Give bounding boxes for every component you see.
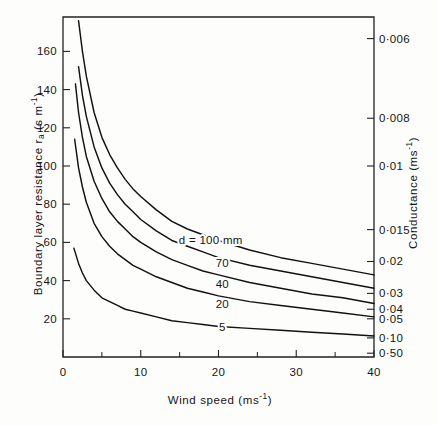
curve-label-1: 70 (216, 257, 229, 269)
y-axis-left-tick-label: 160 (37, 45, 57, 57)
x-axis-title-exponent: -1 (259, 392, 268, 401)
x-axis-title-close: ) (268, 394, 272, 406)
y-axis-left-title-units: (s m (32, 105, 44, 134)
curve-labels-group: d = 100 mmd = 100 mm70704040202055 (179, 234, 243, 333)
y-axis-right-title-close: ) (407, 137, 419, 141)
x-axis-tick-label: 40 (367, 366, 380, 378)
curve-1 (79, 67, 374, 289)
y-axis-left-title-close: ) (32, 92, 44, 96)
y-axis-right-tick-label: 0·05 (379, 313, 403, 325)
y-axis-right-title-main: Conductance (ms (407, 150, 419, 249)
x-axis-tick-label: 10 (134, 366, 147, 378)
curve-label-3: 20 (216, 298, 229, 310)
x-axis-title: Wind speed (ms-1) (120, 392, 320, 406)
y-axis-left-title-exponent: -1 (30, 97, 39, 106)
y-axis-right-title-exponent: -1 (405, 141, 414, 150)
y-axis-right-tick-label: 0·03 (379, 287, 403, 299)
y-axis-right-tick-label: 0·01 (379, 160, 403, 172)
y-axis-left-title: Boundary layer resistance ra (s m-1) (30, 64, 46, 324)
chart-canvas: 204060801001201401600·0060·0080·010·0150… (0, 0, 437, 425)
x-axis-title-main: Wind speed (ms (168, 394, 259, 406)
y-axis-left-title-main: Boundary layer resistance r (32, 139, 44, 295)
x-axis-tick-label: 0 (60, 366, 67, 378)
curve-label-0: d = 100 mm (179, 234, 243, 246)
y-axis-right-tick-label: 0·10 (379, 332, 403, 344)
x-axis-tick-label: 20 (212, 366, 225, 378)
x-axis-tick-label: 30 (290, 366, 303, 378)
figure-container: 204060801001201401600·0060·0080·010·0150… (0, 0, 437, 425)
y-axis-left-title-subscript: a (37, 134, 46, 139)
curve-label-4: 5 (219, 321, 226, 333)
y-axis-right-title: Conductance (ms-1) (405, 63, 419, 323)
y-axis-right-tick-label: 0·006 (379, 33, 410, 45)
y-axis-right-tick-label: 0·50 (379, 347, 403, 359)
curve-2 (75, 84, 374, 304)
x-axis: 010203040 (60, 350, 381, 378)
curve-label-2: 40 (216, 278, 229, 290)
y-axis-right-tick-label: 0·02 (379, 255, 403, 267)
